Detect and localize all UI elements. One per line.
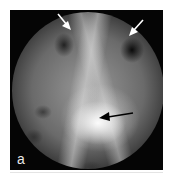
divider [10,172,163,173]
black-arrow-icon [99,112,133,121]
white-arrow-left-icon [58,14,71,30]
white-arrow-right-icon [129,20,143,36]
annotation-arrows [0,0,172,181]
panel-label: a [17,152,25,166]
